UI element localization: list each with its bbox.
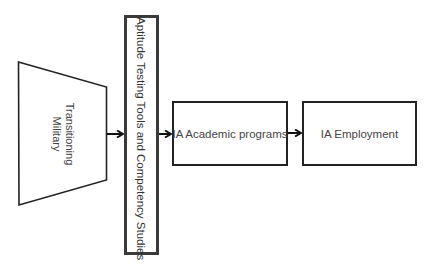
military-label-line2: Military xyxy=(50,117,63,152)
aptitude-testing-label: Aptitude Testing Tools and Competency St… xyxy=(131,17,151,251)
ia-employment-box: IA Employment xyxy=(302,101,417,166)
ia-employment-label: IA Employment xyxy=(321,128,398,140)
transitioning-military-label: Transitioning Military xyxy=(43,79,83,189)
ia-academic-programs-box: IA Academic programs xyxy=(172,101,288,166)
military-label-line1: Transitioning xyxy=(63,103,76,166)
flow-diagram: Transitioning Military Aptitude Testing … xyxy=(0,0,433,269)
ia-academic-programs-label: IA Academic programs xyxy=(172,128,287,140)
